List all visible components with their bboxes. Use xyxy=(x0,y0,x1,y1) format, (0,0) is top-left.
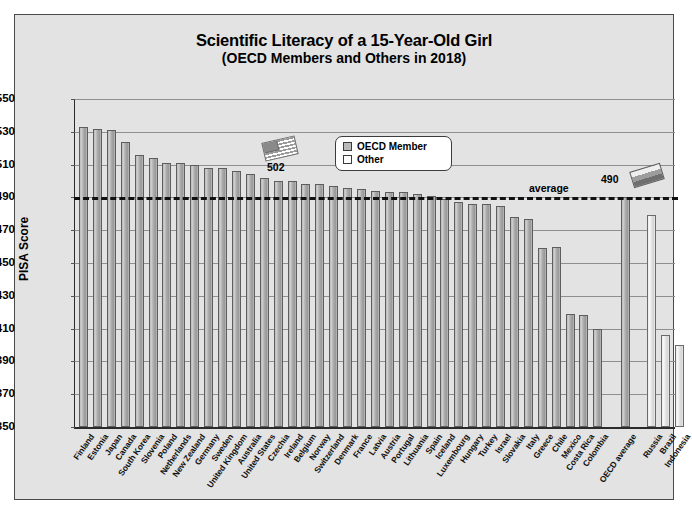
gridline xyxy=(74,132,675,133)
legend-swatch-icon-oecd xyxy=(343,142,352,151)
bar-germany[interactable] xyxy=(204,168,213,427)
oecd-average-callout: 490 xyxy=(601,173,619,185)
bar-italy[interactable] xyxy=(524,219,533,427)
bar-united-kingdom[interactable] xyxy=(232,171,241,427)
bar-united-states[interactable] xyxy=(260,178,269,427)
bar-mexico[interactable] xyxy=(566,314,575,427)
bar-france[interactable] xyxy=(357,189,366,427)
average-reference-line xyxy=(74,197,678,200)
bar-costa-rica[interactable] xyxy=(579,315,588,427)
bar-belgium[interactable] xyxy=(301,184,310,427)
chart-title: Scientific Literacy of a 15-Year-Old Gir… xyxy=(15,31,673,50)
bar-portugal[interactable] xyxy=(399,192,408,427)
y-axis-tick xyxy=(71,427,75,428)
bar-lithuania[interactable] xyxy=(413,194,422,427)
y-axis-tick-label: 390 xyxy=(0,354,15,366)
bar-oecd-average[interactable] xyxy=(621,197,630,427)
bar-switzerland[interactable] xyxy=(329,186,338,427)
legend-swatch-icon-other xyxy=(343,155,352,164)
x-axis-line xyxy=(74,427,675,429)
y-axis-tick-label: 350 xyxy=(0,420,15,432)
bar-brazil[interactable] xyxy=(661,335,670,427)
legend-label-other: Other xyxy=(357,154,384,165)
bar-south-korea[interactable] xyxy=(135,155,144,427)
bar-spain[interactable] xyxy=(427,196,436,427)
bar-colombia[interactable] xyxy=(593,329,602,427)
bar-hungary[interactable] xyxy=(468,204,477,427)
bar-slovakia[interactable] xyxy=(510,217,519,427)
bar-israel[interactable] xyxy=(496,206,505,427)
bar-australia[interactable] xyxy=(246,174,255,427)
bar-turkey[interactable] xyxy=(482,204,491,427)
us-flag-canton xyxy=(262,140,279,153)
y-axis-tick xyxy=(71,296,75,297)
y-axis-tick-label: 370 xyxy=(0,387,15,399)
bar-estonia[interactable] xyxy=(93,129,102,427)
bar-latvia[interactable] xyxy=(371,191,380,427)
y-axis-tick-label: 550 xyxy=(0,92,15,104)
y-axis-tick xyxy=(71,165,75,166)
legend-item-oecd-member[interactable]: OECD Member xyxy=(343,140,445,153)
y-axis-tick xyxy=(71,329,75,330)
y-axis-tick xyxy=(71,132,75,133)
bar-canada[interactable] xyxy=(121,142,130,427)
y-axis-tick-label: 510 xyxy=(0,158,15,170)
bar-luxembourg[interactable] xyxy=(454,202,463,427)
bar-austria[interactable] xyxy=(385,192,394,427)
y-axis-tick-label: 450 xyxy=(0,256,15,268)
bar-denmark[interactable] xyxy=(343,188,352,427)
bar-russia[interactable] xyxy=(647,215,656,427)
bar-new-zealand[interactable] xyxy=(190,165,199,427)
chart-subtitle: (OECD Members and Others in 2018) xyxy=(15,50,673,67)
bar-sweden[interactable] xyxy=(218,168,227,427)
bar-netherlands[interactable] xyxy=(176,163,185,427)
bar-iceland[interactable] xyxy=(440,199,449,427)
bar-indonesia[interactable] xyxy=(675,345,684,427)
y-axis-tick xyxy=(71,99,75,100)
bar-poland[interactable] xyxy=(162,163,171,427)
chart-frame: Scientific Literacy of a 15-Year-Old Gir… xyxy=(14,14,674,500)
bar-ireland[interactable] xyxy=(288,181,297,427)
y-axis-tick-label: 530 xyxy=(0,125,15,137)
legend-item-other[interactable]: Other xyxy=(343,153,445,166)
y-axis-tick-label: 430 xyxy=(0,289,15,301)
legend-label-oecd-member: OECD Member xyxy=(357,141,427,152)
chart-title-block: Scientific Literacy of a 15-Year-Old Gir… xyxy=(15,31,673,67)
average-line-label: average xyxy=(529,182,569,194)
us-score-callout: 502 xyxy=(267,161,285,173)
y-axis-title: PISA Score xyxy=(17,217,31,281)
y-axis-tick xyxy=(71,263,75,264)
y-axis-tick-label: 490 xyxy=(0,190,15,202)
bar-greece[interactable] xyxy=(538,248,547,427)
y-axis-tick xyxy=(71,394,75,395)
chart-legend[interactable]: OECD Member Other xyxy=(335,136,452,171)
y-axis-tick xyxy=(71,230,75,231)
bar-norway[interactable] xyxy=(315,184,324,427)
y-axis-tick-label: 470 xyxy=(0,223,15,235)
y-axis-tick-label: 410 xyxy=(0,322,15,334)
gridline xyxy=(74,99,675,100)
bar-chile[interactable] xyxy=(552,247,561,427)
bar-finland[interactable] xyxy=(79,127,88,427)
y-axis-tick xyxy=(71,361,75,362)
bar-japan[interactable] xyxy=(107,130,116,427)
bar-czechia[interactable] xyxy=(274,181,283,427)
